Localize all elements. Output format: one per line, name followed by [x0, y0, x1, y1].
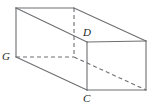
vertex-label-d: D: [83, 27, 91, 38]
vertex-label-g: G: [2, 51, 10, 62]
hidden-edge-bottom-back: [74, 57, 146, 90]
edge-top-right-face: [87, 41, 146, 42]
edge-top-front-diagonal: [16, 8, 87, 42]
prism-figure: G D C: [0, 0, 153, 110]
vertex-label-c: C: [83, 93, 90, 104]
edge-bottom-front-diagonal: [16, 57, 87, 90]
prism-diagram: [0, 0, 153, 110]
